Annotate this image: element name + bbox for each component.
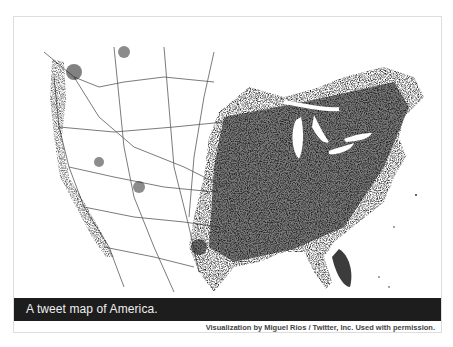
us-tweet-density-map xyxy=(14,17,441,298)
image-credit: Visualization by Miguel Rios / Twitter, … xyxy=(206,323,435,332)
tweet-map xyxy=(14,17,441,298)
figure-frame: A tweet map of America. Visualization by… xyxy=(13,16,442,333)
figure-caption: A tweet map of America. xyxy=(26,302,158,316)
caption-bar: A tweet map of America. xyxy=(14,298,441,321)
